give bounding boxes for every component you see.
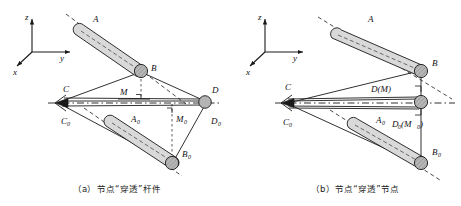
axis-x-line-b xyxy=(250,52,265,66)
node-B0-a xyxy=(165,156,178,169)
svg-text:0: 0 xyxy=(67,121,70,127)
member-AB-centerline-a xyxy=(81,31,139,70)
right-angle-M0-a xyxy=(167,108,172,113)
svg-text:0: 0 xyxy=(382,120,385,126)
label-point-A-a: A xyxy=(92,14,99,24)
svg-text:0: 0 xyxy=(184,119,187,125)
axis-x-label-a: x xyxy=(12,67,17,77)
edge-C0-D0-b xyxy=(288,106,419,107)
svg-text:0: 0 xyxy=(137,119,140,125)
label-point-B0-b: B 0 xyxy=(432,147,441,158)
diagram-svg: z y x xyxy=(0,0,461,206)
frame-upper-a xyxy=(62,72,205,101)
node-C-b xyxy=(281,95,294,111)
right-angle-lower-b xyxy=(415,109,421,115)
svg-text:A: A xyxy=(375,115,382,125)
svg-text:A: A xyxy=(130,114,137,124)
node-B0-b xyxy=(414,156,427,169)
svg-text:0: 0 xyxy=(188,154,191,160)
edge-C-B-a xyxy=(62,72,141,101)
label-point-A0-a: A 0 xyxy=(130,114,140,125)
node-D-M-b xyxy=(414,95,427,108)
label-point-D0-M0-b: D 0 (M 0 ) xyxy=(391,119,423,130)
label-point-D0-a: D 0 xyxy=(210,116,221,127)
member-AB-b xyxy=(331,28,426,76)
svg-text:(M: (M xyxy=(401,119,412,129)
frame-upper-b xyxy=(288,71,419,103)
panel-a: z y x xyxy=(12,12,222,176)
label-point-D-M-b: D(M) xyxy=(370,84,391,94)
axes-a: z y x xyxy=(12,12,70,77)
edge-C0-D0-a xyxy=(62,105,205,106)
caption-panel-a: （a）节点“穿透”杆件 xyxy=(62,182,172,194)
edge-B-D-a xyxy=(141,72,205,101)
label-point-M-a: M xyxy=(119,87,128,97)
label-point-B0-a: B 0 xyxy=(182,149,191,160)
figure-container: z y x xyxy=(0,0,461,206)
node-D-a xyxy=(199,96,212,109)
axes-b: z y x xyxy=(245,12,303,77)
member-AB-a xyxy=(73,23,145,76)
label-point-C0-b: C 0 xyxy=(283,117,292,128)
label-point-B-b: B xyxy=(432,58,438,68)
label-point-C-a: C xyxy=(63,84,70,94)
node-B-a xyxy=(134,64,147,77)
svg-text:0: 0 xyxy=(289,122,292,128)
label-point-C0-a: C 0 xyxy=(61,116,70,127)
label-point-B-a: B xyxy=(151,63,157,73)
caption-panel-b: （b）节点“穿透”节点 xyxy=(300,182,410,194)
axis-x-line-a xyxy=(17,52,32,66)
label-point-A-b: A xyxy=(367,14,374,24)
member-AB-body-b xyxy=(331,28,426,76)
node-C-arrowhead-b xyxy=(281,99,294,108)
edge-C0-D0-b-2 xyxy=(289,108,419,109)
node-B-b xyxy=(414,64,427,77)
edge-C-D-b xyxy=(288,99,419,101)
label-point-M0-a: M 0 xyxy=(175,114,187,125)
axis-x-label-b: x xyxy=(245,67,250,77)
right-angle-upper-b xyxy=(415,86,421,92)
node-C-arrowhead-a xyxy=(55,99,68,108)
axis-y-label-a: y xyxy=(59,53,64,63)
svg-text:M: M xyxy=(175,114,184,124)
axis-z-label-b: z xyxy=(257,12,262,22)
axis-z-label-a: z xyxy=(24,12,29,22)
label-point-C-b: C xyxy=(285,82,292,92)
svg-text:0: 0 xyxy=(218,121,221,127)
svg-text:D: D xyxy=(210,116,218,126)
panel-b: z y x xyxy=(245,12,455,180)
node-C-a xyxy=(55,95,68,111)
svg-text:0: 0 xyxy=(438,152,441,158)
svg-text:): ) xyxy=(419,119,423,129)
axis-y-label-b: y xyxy=(292,53,297,63)
label-point-D-a: D xyxy=(211,85,219,95)
label-point-A0-b: A 0 xyxy=(375,115,385,126)
